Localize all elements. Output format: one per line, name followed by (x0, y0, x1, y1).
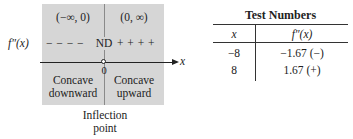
interval-label-right: (0, ∞) (105, 11, 163, 24)
sign-not-defined: ND (92, 37, 116, 50)
header-x: x (213, 28, 255, 41)
header-second-derivative: f″(x) (256, 28, 348, 41)
x-axis-line (40, 62, 174, 63)
concavity-right: Concave upward (105, 74, 163, 100)
concavity-right-line2: upward (105, 87, 163, 100)
axis-arrow-icon (172, 59, 179, 65)
inflection-annotation: Inflection point (70, 109, 140, 135)
annotation-line1: Inflection (70, 109, 140, 122)
table-row-0-x: −8 (213, 47, 255, 60)
concavity-left-line2: downward (42, 87, 104, 100)
table-header-rule (213, 42, 348, 43)
concavity-left-line1: Concave (42, 74, 104, 87)
sign-negative: − − − − (46, 37, 84, 50)
annotation-line2: point (70, 122, 140, 135)
table-row-1-value: 1.67 (+) (256, 64, 348, 77)
table-row-0-value: −1.67 (−) (256, 47, 348, 60)
table-top-rule (213, 24, 348, 25)
concavity-left: Concave downward (42, 74, 104, 100)
sign-positive: + + + + (117, 37, 155, 50)
concavity-right-line1: Concave (105, 74, 163, 87)
axis-label: x (180, 55, 185, 68)
table-title: Test Numbers (213, 9, 348, 22)
table-row-1-x: 8 (213, 64, 255, 77)
row-label-second-derivative: f″(x) (8, 37, 29, 50)
interval-label-left: (−∞, 0) (42, 11, 104, 24)
